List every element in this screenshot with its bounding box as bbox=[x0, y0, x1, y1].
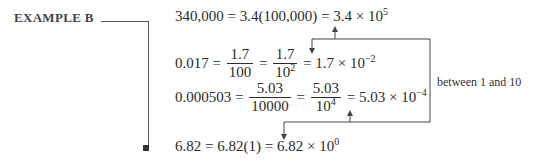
bracket-arrows-diagram bbox=[0, 0, 553, 162]
upper-bracket-arrows bbox=[312, 29, 430, 122]
lower-bracket-arrows bbox=[284, 113, 430, 137]
